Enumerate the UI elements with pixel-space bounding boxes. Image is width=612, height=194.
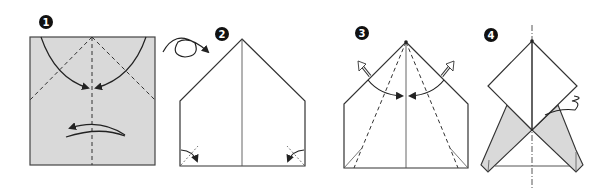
step-3-number: 3 — [359, 28, 366, 39]
apex-point — [404, 40, 408, 44]
step-2-number: 2 — [219, 29, 226, 40]
paper-pentagon — [180, 39, 305, 166]
step-4-number: 4 — [488, 30, 495, 41]
top-point — [530, 39, 534, 43]
step-2: 2 — [163, 27, 305, 166]
step-1: 1 — [30, 15, 155, 165]
step-3: 3 — [344, 26, 468, 168]
step-4: 4 — [481, 25, 583, 188]
origami-diagram: 1 2 3 — [0, 0, 612, 194]
flip-over-arrow-icon — [163, 38, 208, 57]
unfold-arrow-right-icon — [442, 61, 454, 76]
step-1-number: 1 — [43, 17, 50, 28]
unfold-arrow-left-icon — [358, 61, 370, 76]
